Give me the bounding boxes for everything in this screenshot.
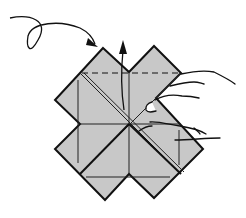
turn-over-arrow-icon — [10, 17, 98, 49]
origami-diagram — [0, 0, 246, 218]
